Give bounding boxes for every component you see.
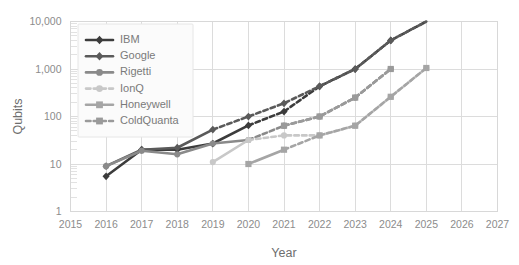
x-tick-2023: 2023 (343, 218, 367, 230)
x-tick-2016: 2016 (94, 218, 118, 230)
data-point-marker (96, 69, 103, 76)
y-tick-1: 1 (56, 205, 62, 217)
data-point-marker (352, 123, 358, 129)
data-point-marker (96, 85, 103, 92)
data-point-marker (281, 147, 287, 153)
x-tick-2020: 2020 (237, 218, 261, 230)
chart-figure: 1101001,00010,000 2015201620172018201920… (0, 0, 519, 265)
legend-label: Honeywell (120, 98, 171, 110)
data-point-marker (139, 148, 145, 154)
data-point-marker (174, 151, 180, 157)
legend-label: Rigetti (120, 65, 151, 77)
x-tick-2021: 2021 (272, 218, 296, 230)
x-tick-2022: 2022 (308, 218, 332, 230)
y-tick-1000: 1,000 (35, 63, 61, 75)
series-coldquanta (281, 66, 394, 129)
data-point-marker (245, 113, 252, 121)
data-point-marker (281, 123, 287, 129)
x-tick-2015: 2015 (59, 218, 83, 230)
data-point-marker (210, 159, 216, 165)
y-tick-10: 10 (50, 158, 62, 170)
x-tick-2017: 2017 (130, 218, 154, 230)
x-tick-2018: 2018 (166, 218, 190, 230)
y-axis-title: Qubits (11, 98, 25, 134)
y-tick-10000: 10,000 (29, 15, 61, 27)
legend-label: ColdQuanta (120, 114, 180, 126)
y-tick-100: 100 (44, 110, 62, 122)
data-point-marker (245, 161, 251, 167)
x-tick-2027: 2027 (486, 218, 510, 230)
data-point-marker (388, 94, 394, 100)
legend-label: IBM (120, 33, 140, 45)
x-tick-2025: 2025 (415, 218, 439, 230)
data-point-marker (96, 118, 103, 125)
y-axis-tick-labels: 1101001,00010,000 (29, 15, 61, 217)
x-tick-2019: 2019 (201, 218, 225, 230)
qubit-roadmap-chart: 1101001,00010,000 2015201620172018201920… (0, 0, 519, 265)
data-point-marker (210, 140, 216, 146)
y-axis-minor-ticks (71, 24, 77, 198)
data-point-marker (280, 99, 287, 107)
data-point-marker (352, 94, 358, 100)
x-tick-2024: 2024 (379, 218, 403, 230)
data-point-marker (423, 65, 429, 71)
data-point-marker (96, 101, 103, 108)
x-axis-tick-labels: 2015201620172018201920202021202220232024… (59, 218, 510, 230)
x-axis-title: Year (271, 246, 296, 260)
data-point-marker (388, 66, 394, 72)
legend-label: Google (120, 49, 155, 61)
data-point-marker (316, 132, 322, 138)
x-tick-2026: 2026 (450, 218, 474, 230)
chart-legend[interactable]: IBMGoogleRigettiIonQHoneywellColdQuanta (78, 24, 193, 137)
data-point-marker (103, 163, 109, 169)
data-point-marker (245, 137, 251, 143)
data-point-marker (316, 113, 322, 119)
legend-label: IonQ (120, 82, 144, 94)
data-point-marker (281, 132, 287, 138)
